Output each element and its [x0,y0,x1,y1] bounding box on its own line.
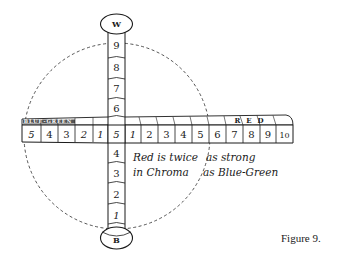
white-cap-label: W [111,19,122,29]
value-step-3: 3 [113,168,119,179]
figure-caption: Figure 9. [281,232,321,244]
blue-green-chroma-4: 4 [46,129,52,140]
red-chroma-1: 1 [130,129,136,140]
value-step-9: 9 [113,40,119,51]
black-cap-label: B [113,235,120,245]
red-chroma-9: 9 [265,129,271,140]
blue-green-chroma-5: 5 [28,129,34,140]
annotation-line2-left: in Chroma [133,166,189,178]
annotation-line2-right: as Blue-Green [203,166,278,178]
annotation-line1-right: as strong [206,151,256,163]
red-chroma-6: 6 [214,129,220,140]
red-chroma-7: 7 [231,129,237,140]
value-step-2: 2 [113,189,119,200]
value-step-5-center: 5 [113,129,119,140]
chroma-diagram: W B 9 8 7 6 5 4 3 2 1 5 4 3 2 1 1 2 3 4 … [0,0,342,259]
red-chroma-3: 3 [163,129,169,140]
red-chroma-10: 10 [279,131,289,140]
red-chroma-5: 5 [197,129,203,140]
blue-green-chroma-2: 2 [80,129,87,140]
blue-green-chroma-3: 3 [63,129,69,140]
diagram-canvas: W B 9 8 7 6 5 4 3 2 1 5 4 3 2 1 1 2 3 4 … [0,0,342,259]
red-chroma-2: 2 [146,129,152,140]
red-chroma-4: 4 [180,129,186,140]
red-chroma-8: 8 [248,129,254,140]
value-step-8: 8 [113,62,119,73]
value-step-1: 1 [113,210,119,221]
blue-green-label: BLUE-GREEN [24,118,72,124]
value-step-7: 7 [113,83,119,94]
red-label: RED [234,116,269,125]
value-step-4: 4 [113,148,119,159]
annotation-line1-left: Red is twice [132,151,198,163]
value-step-6: 6 [113,103,119,114]
blue-green-chroma-1: 1 [97,129,103,140]
